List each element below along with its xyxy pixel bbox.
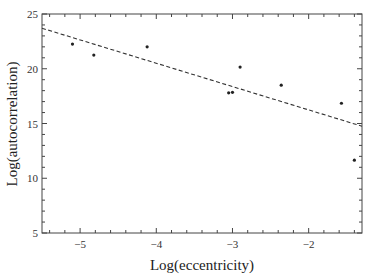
fit-line <box>42 28 362 126</box>
tick-labels: −5−4−3−2510152025 <box>27 8 315 250</box>
data-point <box>353 159 356 162</box>
data-point <box>238 66 241 69</box>
scatter-chart: −5−4−3−2510152025 Log(eccentricity) Log(… <box>0 0 372 278</box>
plot-border <box>42 14 362 233</box>
regression-line <box>42 28 362 126</box>
data-point <box>227 91 230 94</box>
data-point <box>340 102 343 105</box>
x-tick-label: −4 <box>150 238 162 250</box>
y-tick-label: 5 <box>33 227 39 239</box>
x-tick-label: −2 <box>303 238 315 250</box>
y-axis-title: Log(autocorrelation) <box>4 62 21 187</box>
data-point <box>92 53 95 56</box>
y-tick-label: 15 <box>27 118 39 130</box>
y-tick-label: 25 <box>27 8 39 20</box>
data-point <box>280 84 283 87</box>
data-point <box>146 45 149 48</box>
x-tick-label: −3 <box>227 238 239 250</box>
data-points <box>71 43 356 162</box>
x-tick-label: −5 <box>74 238 86 250</box>
axis-ticks <box>42 14 362 233</box>
data-point <box>231 91 234 94</box>
y-tick-label: 10 <box>27 172 39 184</box>
y-tick-label: 20 <box>27 63 39 75</box>
plot-frame <box>42 14 362 233</box>
data-point <box>71 43 74 46</box>
x-axis-title: Log(eccentricity) <box>150 257 254 274</box>
